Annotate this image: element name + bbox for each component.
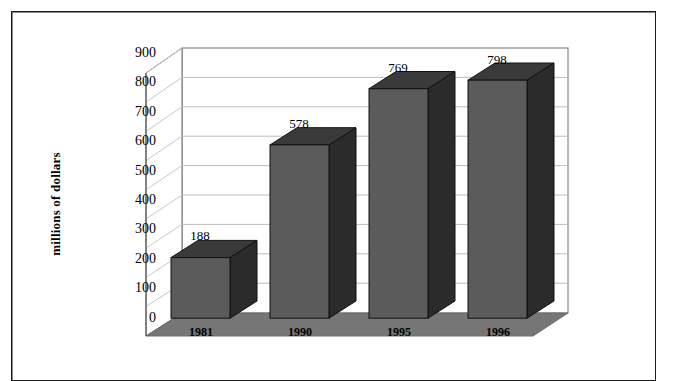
bar-1981 — [171, 240, 257, 318]
data-label-1995: 769 — [363, 61, 433, 74]
bar-1995-front — [369, 89, 428, 319]
y-tick-900: 900 — [110, 46, 156, 60]
bar-1996-front — [468, 80, 527, 318]
y-tick-200: 200 — [110, 252, 156, 266]
data-label-1981: 188 — [165, 229, 235, 242]
bar-1996-side — [527, 63, 554, 318]
y-axis-title: millions of dollars — [48, 104, 64, 304]
y-tick-100: 100 — [110, 281, 156, 295]
bar-1995-side — [428, 72, 455, 319]
y-tick-300: 300 — [110, 222, 156, 236]
y-tick-500: 500 — [110, 164, 156, 178]
y-tick-800: 800 — [110, 75, 156, 89]
bar-1990 — [270, 128, 356, 319]
y-axis-tick-labels: 900 800 700 600 500 400 300 200 100 0 — [110, 0, 156, 363]
x-tick-1990: 1990 — [255, 326, 345, 339]
y-tick-400: 400 — [110, 193, 156, 207]
data-label-1996: 798 — [462, 53, 532, 66]
y-tick-0: 0 — [110, 311, 156, 325]
x-tick-1995: 1995 — [354, 326, 444, 339]
bar-1996 — [468, 63, 554, 318]
bar-1990-side — [329, 128, 356, 319]
x-tick-1981: 1981 — [156, 326, 246, 339]
data-label-1990: 578 — [264, 117, 334, 130]
bar-1990-front — [270, 145, 329, 318]
bar-1981-front — [171, 258, 230, 319]
y-tick-600: 600 — [110, 134, 156, 148]
y-tick-700: 700 — [110, 105, 156, 119]
x-tick-1996: 1996 — [453, 326, 543, 339]
bar-1995 — [369, 72, 455, 319]
